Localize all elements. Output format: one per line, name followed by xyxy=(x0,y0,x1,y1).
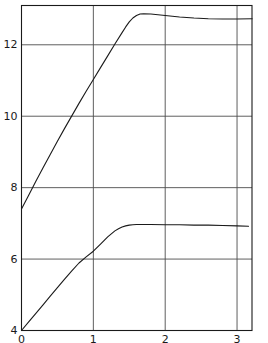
plot-border xyxy=(22,6,253,331)
series-upper-curve xyxy=(22,14,253,209)
line-chart-plot xyxy=(0,0,268,343)
y-tick-label: 10 xyxy=(0,111,18,122)
chart-figure: 68101240123 xyxy=(0,0,268,343)
y-tick-label: 6 xyxy=(0,254,18,265)
x-tick-label: 3 xyxy=(227,334,247,343)
y-tick-label: 8 xyxy=(0,182,18,193)
x-tick-label: 1 xyxy=(83,334,103,343)
x-origin-label: 0 xyxy=(12,334,32,343)
series-lower-curve xyxy=(22,224,249,330)
plot-frame xyxy=(22,6,253,331)
gridlines-group xyxy=(22,6,253,331)
y-tick-label: 12 xyxy=(0,39,18,50)
curves-group xyxy=(22,14,253,331)
x-tick-label: 2 xyxy=(155,334,175,343)
